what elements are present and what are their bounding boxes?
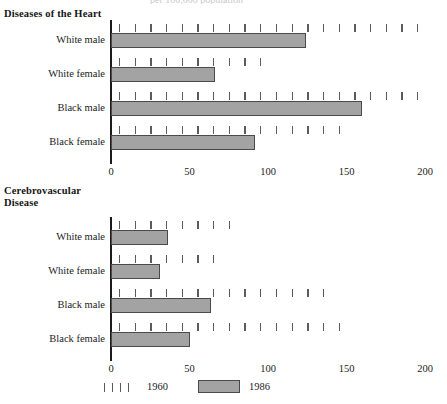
series-1986-bar: [111, 135, 255, 150]
series-1986-bar: [111, 298, 211, 313]
category-label: Black male: [57, 299, 105, 311]
legend-item-1986: 1986: [198, 380, 270, 393]
category-label: White female: [48, 68, 105, 80]
x-tick-label: 150: [327, 363, 367, 375]
series-1986-bar: [111, 332, 190, 347]
x-tick-label: 0: [91, 166, 131, 178]
x-tick-label: 150: [327, 166, 367, 178]
category-label: White female: [48, 265, 105, 277]
chart-1-plot-area: White maleWhite femaleBlack maleBlack fe…: [0, 18, 447, 180]
dashed-ticks-icon: [104, 383, 138, 392]
series-1960-ticks: [0, 24, 447, 32]
x-tick-label: 100: [248, 166, 288, 178]
x-tick-label: 50: [170, 363, 210, 375]
series-1986-bar: [111, 264, 160, 279]
chart-2-plot-area: White maleWhite femaleBlack maleBlack fe…: [0, 215, 447, 377]
series-1986-bar: [111, 101, 362, 116]
category-label: White male: [56, 34, 105, 46]
chart-2-title: Cerebrovascular Disease: [4, 185, 81, 209]
category-label: Black female: [49, 136, 105, 148]
series-1960-ticks: [0, 92, 447, 100]
series-1960-ticks: [0, 126, 447, 134]
filled-bar-swatch-icon: [198, 380, 240, 393]
x-axis-origin-tick: [110, 357, 111, 361]
series-1960-ticks: [0, 255, 447, 263]
series-1986-bar: [111, 33, 306, 48]
series-1960-ticks: [0, 58, 447, 66]
series-1960-ticks: [0, 221, 447, 229]
x-tick-label: 100: [248, 363, 288, 375]
category-label: Black female: [49, 333, 105, 345]
series-1986-bar: [111, 230, 168, 245]
series-1960-ticks: [0, 289, 447, 297]
x-axis-origin-tick: [110, 160, 111, 164]
x-tick-label: 200: [405, 166, 445, 178]
clipped-header-text: per 100,000 population: [150, 0, 390, 4]
dual-bar-chart-figure: per 100,000 population Diseases of the H…: [0, 0, 447, 404]
category-label: White male: [56, 231, 105, 243]
category-label: Black male: [57, 102, 105, 114]
x-tick-label: 50: [170, 166, 210, 178]
legend-label-1960: 1960: [147, 381, 168, 393]
chart-legend: 1960 1986: [0, 381, 447, 399]
x-tick-label: 0: [91, 363, 131, 375]
legend-item-1960: 1960: [104, 381, 168, 393]
x-tick-label: 200: [405, 363, 445, 375]
series-1986-bar: [111, 67, 215, 82]
series-1960-ticks: [0, 323, 447, 331]
legend-label-1986: 1986: [249, 381, 270, 393]
